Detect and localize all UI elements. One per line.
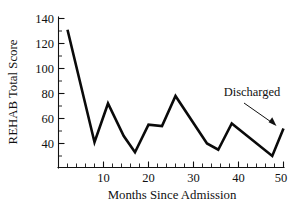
- x-axis-minor-ticks: [68, 164, 275, 168]
- y-tick-label-80: 80: [42, 87, 55, 101]
- rehab-score-line-chart: 140 120 100 80 60 40: [0, 0, 293, 208]
- y-tick-label-60: 60: [42, 112, 55, 126]
- y-axis-title: REHAB Total Score: [6, 39, 20, 144]
- annotation-arrow-line: [244, 103, 274, 124]
- annotation-label-discharged: Discharged: [224, 85, 281, 99]
- y-tick-label-120: 120: [35, 37, 54, 51]
- chart-figure: 140 120 100 80 60 40: [0, 0, 293, 208]
- x-tick-label-30: 30: [187, 171, 200, 185]
- y-tick-label-40: 40: [42, 137, 55, 151]
- y-tick-label-100: 100: [35, 62, 54, 76]
- x-axis: 10 20 30 40 50: [58, 162, 287, 186]
- x-tick-label-50: 50: [275, 171, 288, 185]
- x-axis-title: Months Since Admission: [108, 188, 237, 202]
- y-tick-label-140: 140: [35, 12, 54, 26]
- x-tick-label-40: 40: [232, 171, 245, 185]
- annotation-arrow-head: [269, 117, 277, 126]
- y-axis: 140 120 100 80 60 40: [35, 12, 64, 168]
- x-tick-label-20: 20: [142, 171, 155, 185]
- x-tick-label-10: 10: [97, 171, 110, 185]
- discharged-annotation: Discharged: [224, 85, 281, 126]
